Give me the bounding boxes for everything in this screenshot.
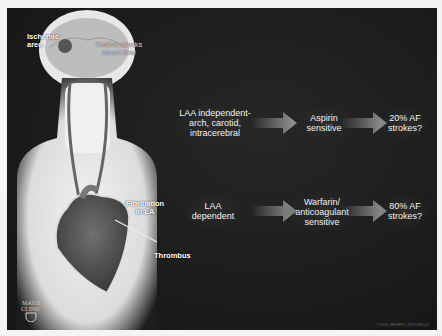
mayo-clinic-logo: MAYO CLINIC bbox=[21, 300, 41, 323]
copyright-credit: ©2011 MFMER | 3177488-01 bbox=[377, 322, 429, 327]
label-fibrillation: Fibrillation in LA bbox=[125, 200, 165, 216]
label-ischemic-area: Ischemic area bbox=[27, 33, 61, 49]
row1-source: LAA independent-arch, carotid, intracere… bbox=[175, 101, 255, 145]
slide: Ischemic area Emboli blocks blood flow F… bbox=[7, 8, 437, 330]
label-thrombus: Thrombus bbox=[154, 252, 191, 260]
label-emboli: Emboli blocks blood flow bbox=[89, 41, 149, 57]
shield-icon bbox=[25, 312, 37, 322]
arrow-right-icon bbox=[251, 112, 297, 134]
row2-outcome: 80% AF strokes? bbox=[381, 194, 429, 228]
row2-source: LAA dependent bbox=[183, 194, 243, 228]
row1-outcome: 20% AF strokes? bbox=[381, 106, 429, 140]
